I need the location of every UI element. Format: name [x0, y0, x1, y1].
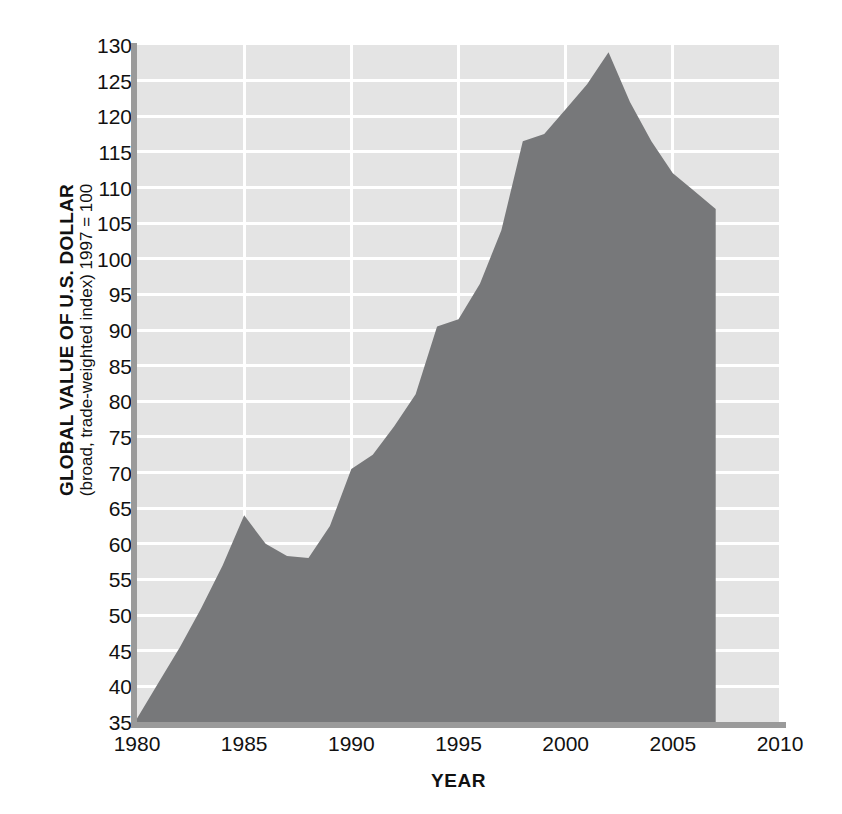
y-tick-label: 85: [88, 355, 132, 376]
y-tick-label: 50: [88, 605, 132, 626]
y-tick-label: 90: [88, 320, 132, 341]
y-tick-label: 55: [88, 569, 132, 590]
y-tick-label: 40: [88, 676, 132, 697]
y-tick-label: 120: [88, 106, 132, 127]
y-tick-label: 130: [88, 35, 132, 56]
x-tick-label: 2000: [542, 733, 589, 754]
area-series-path: [137, 52, 716, 722]
x-tick-label: 1990: [328, 733, 375, 754]
chart-figure: GLOBAL VALUE OF U.S. DOLLAR (broad, trad…: [0, 0, 842, 814]
x-tick-label: 2010: [757, 733, 804, 754]
x-tick-label: 1985: [221, 733, 268, 754]
y-tick-label: 100: [88, 248, 132, 269]
x-tick-label: 2005: [649, 733, 696, 754]
x-tick-label: 1995: [435, 733, 482, 754]
y-tick-label: 105: [88, 213, 132, 234]
x-axis-tick-labels: 1980198519901995200020052010: [0, 733, 842, 765]
x-axis-spine: [131, 722, 786, 728]
y-tick-label: 75: [88, 426, 132, 447]
y-tick-label: 65: [88, 498, 132, 519]
y-tick-label: 60: [88, 533, 132, 554]
y-tick-label: 115: [88, 141, 132, 162]
y-tick-label: 95: [88, 284, 132, 305]
x-tick-label: 1980: [114, 733, 161, 754]
y-axis-title-main: GLOBAL VALUE OF U.S. DOLLAR: [56, 40, 77, 640]
y-tick-label: 110: [88, 177, 132, 198]
y-tick-label: 70: [88, 462, 132, 483]
y-tick-label: 35: [88, 712, 132, 733]
y-axis-tick-labels: 3540455055606570758085909510010511011512…: [88, 0, 132, 760]
area-series: [137, 45, 780, 722]
y-axis-title: GLOBAL VALUE OF U.S. DOLLAR (broad, trad…: [0, 0, 60, 760]
x-axis-title: YEAR: [137, 770, 780, 792]
y-tick-label: 45: [88, 640, 132, 661]
y-tick-label: 80: [88, 391, 132, 412]
y-tick-label: 125: [88, 70, 132, 91]
plot-area: [137, 45, 780, 722]
